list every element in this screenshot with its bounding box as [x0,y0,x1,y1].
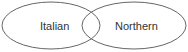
set-label-italian: Italian [40,20,69,32]
venn-diagram [0,0,188,52]
set-label-northern: Northern [115,20,158,32]
